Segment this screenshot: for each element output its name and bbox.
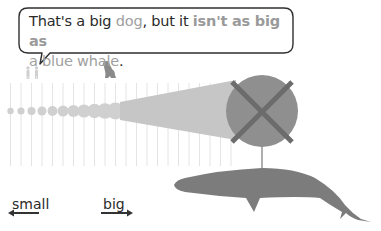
small-label: small [12, 196, 49, 212]
text-normal: . [119, 53, 123, 69]
text-whale-highlight: a blue whale [29, 53, 119, 69]
big-label: big [103, 196, 125, 212]
blue-whale-icon [174, 168, 371, 222]
text-normal: , but it [142, 13, 192, 29]
size-comparison-diagram: That's a big dog, but it isn't as big as… [0, 0, 381, 231]
text-normal: That's a big [29, 13, 116, 29]
size-dots [7, 102, 135, 120]
text-dog-highlight: dog [116, 13, 143, 29]
speech-bubble-text: That's a big dog, but it isn't as big as… [29, 11, 291, 71]
